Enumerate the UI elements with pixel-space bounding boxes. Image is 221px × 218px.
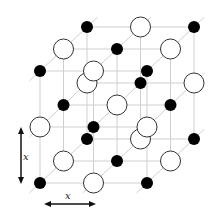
large-atom <box>30 117 50 137</box>
large-atom <box>184 73 204 93</box>
large-atom <box>137 117 157 137</box>
large-atom <box>54 151 74 171</box>
large-atom <box>131 17 151 37</box>
small-atom <box>34 65 46 77</box>
horizontal-dimension-arrow <box>44 201 96 207</box>
small-atom <box>111 155 123 167</box>
small-atom <box>81 21 93 33</box>
small-atom <box>135 77 147 89</box>
large-atom <box>107 95 127 115</box>
lattice-atoms <box>30 17 204 193</box>
large-atom <box>161 39 181 59</box>
large-atom <box>54 39 74 59</box>
small-atom <box>81 133 93 145</box>
lattice-diagram: x x <box>0 0 221 218</box>
horizontal-dimension-label: x <box>65 190 71 201</box>
small-atom <box>88 121 100 133</box>
small-atom <box>111 43 123 55</box>
small-atom <box>188 133 200 145</box>
vertical-dimension-label: x <box>23 151 29 162</box>
small-atom <box>141 65 153 77</box>
small-atom <box>188 21 200 33</box>
lattice-svg <box>0 0 221 218</box>
large-atom <box>84 61 104 81</box>
small-atom <box>34 177 46 189</box>
large-atom <box>161 151 181 171</box>
small-atom <box>165 99 177 111</box>
small-atom <box>141 177 153 189</box>
large-atom <box>84 173 104 193</box>
small-atom <box>58 99 70 111</box>
